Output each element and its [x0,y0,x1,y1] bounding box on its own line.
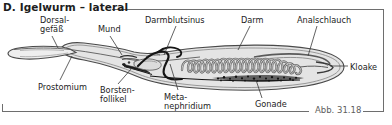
figure-igelwurm-lateral: D. Igelwurm – lateral Abb. 31.18 [0,0,392,125]
label-prostomium: Prostomium [38,83,87,92]
label-dorsalgefaess: Dorsal- gefäß [40,16,69,34]
leader-prostomium [60,56,72,80]
label-mund: Mund [98,25,121,34]
label-kloake: Kloake [350,63,377,72]
label-darmblutsinus: Darmblutsinus [145,16,205,25]
label-borstenfollikel: Borsten- follikel [100,86,135,104]
label-gonade: Gonade [255,100,287,109]
label-darm: Darm [241,16,264,25]
label-metanephridium: Meta- nephridium [164,93,211,111]
label-analschlauch: Analschlauch [297,16,351,25]
